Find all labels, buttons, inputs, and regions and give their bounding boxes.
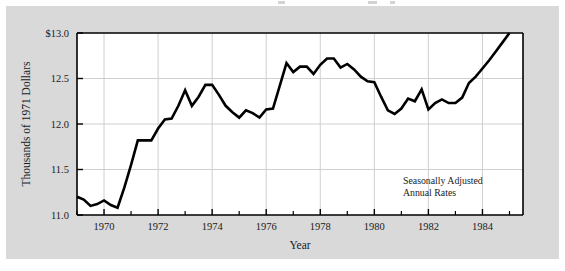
chart-page: 11.011.512.012.5$13.0 197019721974197619…: [0, 0, 565, 271]
x-axis-title: Year: [289, 239, 310, 251]
x-tick-label: 1976: [256, 221, 277, 232]
y-tick-label: 12.5: [51, 73, 69, 84]
x-tick-label: 1980: [364, 221, 385, 232]
x-axis-tick-labels: 19701972197419761978198019821984: [94, 221, 494, 232]
annotation-line-1: Seasonally Adjusted: [403, 175, 483, 186]
x-tick-label: 1982: [418, 221, 439, 232]
x-tick-label: 1974: [202, 221, 224, 232]
x-tick-label: 1972: [148, 221, 169, 232]
y-axis-tick-labels: 11.011.512.012.5$13.0: [45, 28, 69, 221]
y-tick-label: $13.0: [45, 28, 69, 39]
x-tick-label: 1978: [310, 221, 331, 232]
x-tick-label: 1984: [472, 221, 494, 232]
line-chart: 11.011.512.012.5$13.0 197019721974197619…: [6, 6, 559, 259]
y-tick-label: 11.0: [51, 210, 69, 221]
y-tick-label: 11.5: [51, 164, 69, 175]
y-axis-title: Thousands of 1971 Dollars: [20, 61, 32, 186]
x-tick-label: 1970: [94, 221, 115, 232]
y-tick-label: 12.0: [51, 119, 69, 130]
annotation-line-2: Annual Rates: [403, 187, 456, 198]
